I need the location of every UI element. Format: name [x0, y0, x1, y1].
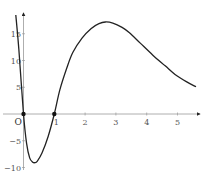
y-tick-label: 5: [16, 83, 21, 92]
function-plot: 12345−10−551015 O: [0, 0, 210, 176]
y-tick-label: −10: [4, 164, 21, 173]
y-tick-label: −5: [9, 137, 21, 146]
axis-ticks: 12345−10−551015: [4, 30, 180, 173]
x-tick-label: 4: [144, 118, 149, 127]
x-tick-label: 5: [175, 118, 180, 127]
function-curve: [16, 15, 196, 163]
x-tick-label: 2: [83, 118, 88, 127]
axes: [3, 13, 200, 170]
origin-label: O: [15, 117, 22, 127]
x-tick-label: 3: [113, 118, 118, 127]
root-point: [52, 112, 56, 116]
y-tick-label: 15: [11, 30, 21, 39]
x-tick-label: 1: [54, 118, 59, 127]
root-point: [21, 112, 25, 116]
